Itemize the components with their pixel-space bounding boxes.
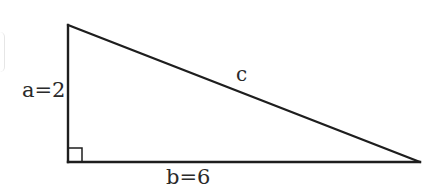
side-b-label: b=6 <box>166 167 210 188</box>
side-a-label: a=2 <box>22 80 65 101</box>
hypotenuse-c-label: c <box>236 64 247 84</box>
right-angle-marker <box>68 148 82 162</box>
side-c-hypotenuse-line <box>68 25 420 162</box>
